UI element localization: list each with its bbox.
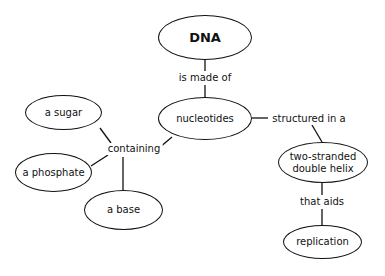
node-helix-line1: two-stranded xyxy=(290,151,357,163)
node-helix-line2: double helix xyxy=(292,163,353,175)
node-base-label: a base xyxy=(107,204,140,216)
node-sugar-label: a sugar xyxy=(45,107,82,119)
node-replication-label: replication xyxy=(296,236,349,248)
node-dna-label: DNA xyxy=(189,32,221,44)
node-phosphate-label: a phosphate xyxy=(22,167,84,179)
node-sugar: a sugar xyxy=(25,95,102,130)
link-is-made-of: is made of xyxy=(177,72,233,84)
link-structured-in-a: structured in a xyxy=(270,113,347,125)
node-double-helix: two-stranded double helix xyxy=(278,142,368,183)
node-replication: replication xyxy=(283,225,362,259)
link-that-aids: that aids xyxy=(298,196,346,208)
node-phosphate: a phosphate xyxy=(15,153,92,192)
node-dna: DNA xyxy=(158,15,252,60)
node-nucleotides-label: nucleotides xyxy=(176,113,234,125)
link-containing: containing xyxy=(106,143,163,155)
node-nucleotides: nucleotides xyxy=(158,97,252,140)
node-base: a base xyxy=(84,190,163,230)
concept-map: DNA is made of nucleotides a sugar conta… xyxy=(0,0,385,276)
